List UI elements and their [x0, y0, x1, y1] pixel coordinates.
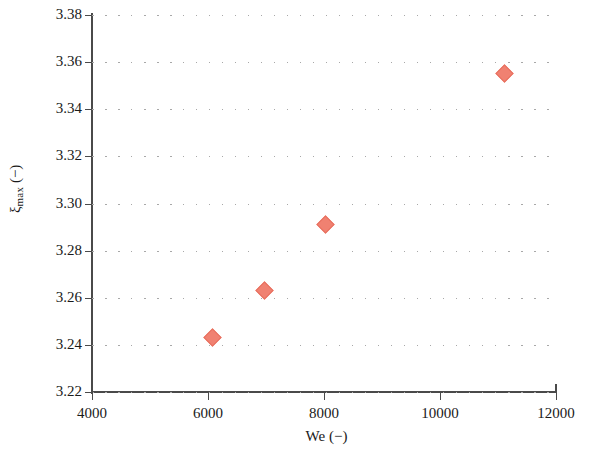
gridline-horizontal: [92, 298, 556, 299]
x-axis-tick-label: 8000: [289, 406, 359, 421]
y-axis-tick-label: 3.38: [26, 7, 82, 22]
data-point-marker: [496, 65, 514, 83]
y-axis-title-unit: (−): [7, 165, 23, 183]
x-axis-tick: [208, 392, 209, 400]
gridline-horizontal: [92, 345, 556, 346]
x-axis-tick-label: 12000: [521, 406, 591, 421]
y-axis-tick-label: 3.28: [26, 243, 82, 258]
y-axis-tick: [85, 251, 92, 252]
x-axis-tick: [556, 392, 557, 400]
x-axis-tick: [92, 392, 93, 400]
gridline-horizontal: [92, 109, 556, 110]
y-axis-tick-label: 3.26: [26, 290, 82, 305]
y-axis-tick: [85, 62, 92, 63]
y-axis-title: ξmax (−): [7, 89, 25, 289]
gridline-horizontal: [92, 62, 556, 63]
gridline-horizontal: [92, 251, 556, 252]
gridline-horizontal: [92, 15, 556, 16]
gridline-horizontal: [92, 156, 556, 157]
y-axis-tick: [85, 15, 92, 16]
x-axis-tick: [440, 392, 441, 400]
y-axis-tick: [85, 204, 92, 205]
y-axis-title-symbol: ξ: [7, 206, 23, 213]
x-axis-title: We (−): [0, 428, 593, 445]
y-axis-tick-label: 3.24: [26, 337, 82, 352]
y-axis-tick: [85, 345, 92, 346]
y-axis-tick-label: 3.32: [26, 148, 82, 163]
x-axis-tick: [324, 392, 325, 400]
y-axis-title-unit-space: [7, 183, 23, 187]
y-axis-tick: [85, 156, 92, 157]
y-axis-tick: [85, 392, 92, 393]
y-axis-title-subscript: max: [13, 187, 25, 207]
y-axis-tick-label: 3.22: [26, 384, 82, 399]
y-axis-tick-label: 3.30: [26, 196, 82, 211]
y-axis-tick-label: 3.36: [26, 54, 82, 69]
y-axis-tick-label: 3.34: [26, 101, 82, 116]
gridline-horizontal: [92, 204, 556, 205]
x-axis-tick-label: 4000: [57, 406, 127, 421]
plot-area: [92, 15, 556, 392]
y-axis-tick: [85, 109, 92, 110]
x-axis-title-text: We (−): [306, 428, 348, 444]
x-axis-tick-label: 10000: [405, 406, 475, 421]
x-axis-tick-label: 6000: [173, 406, 243, 421]
data-point-marker: [316, 216, 334, 234]
chart-figure: 3.223.243.263.283.303.323.343.363.38 400…: [0, 0, 593, 454]
y-axis-tick: [85, 298, 92, 299]
